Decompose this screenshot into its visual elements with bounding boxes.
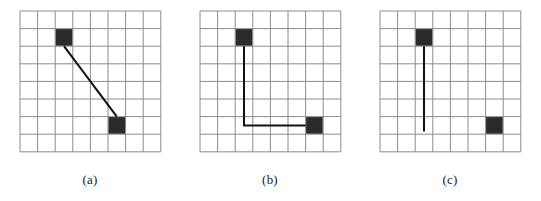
- panel-a: (a): [0, 0, 180, 201]
- start-cell: [235, 29, 252, 46]
- figure-container: (a) (b) (c): [0, 0, 541, 201]
- start-cell: [415, 29, 432, 46]
- grid-c: [378, 9, 523, 159]
- caption-a: (a): [82, 173, 97, 186]
- goal-cell: [486, 117, 503, 134]
- panel-b: (b): [180, 0, 360, 201]
- grid-b: [198, 9, 343, 159]
- start-cell: [55, 29, 72, 46]
- grid-c-svg: [378, 9, 523, 157]
- grid-a-svg: [18, 9, 163, 157]
- caption-b: (b): [262, 173, 278, 186]
- goal-cell: [108, 117, 125, 134]
- panel-c: (c): [360, 0, 540, 201]
- grid-b-svg: [198, 9, 343, 157]
- grid-a: [18, 9, 163, 159]
- caption-c: (c): [442, 173, 457, 186]
- goal-cell: [306, 117, 323, 134]
